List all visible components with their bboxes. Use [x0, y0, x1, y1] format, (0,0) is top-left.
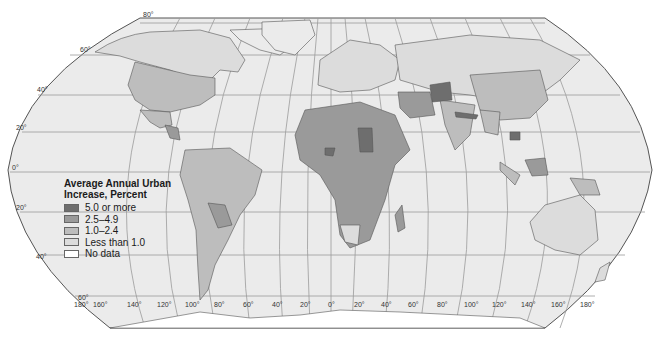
legend-swatch: [64, 204, 79, 212]
legend-item: No data: [64, 248, 194, 260]
svg-text:0°: 0°: [12, 164, 19, 171]
legend-item: 1.0–2.4: [64, 225, 194, 237]
svg-text:160°: 160°: [551, 301, 566, 308]
svg-text:120°: 120°: [492, 301, 507, 308]
legend: Average Annual Urban Increase, Percent 5…: [64, 178, 194, 260]
svg-text:20°: 20°: [16, 204, 27, 211]
svg-text:80°: 80°: [143, 11, 154, 18]
svg-text:60°: 60°: [408, 301, 419, 308]
svg-text:40°: 40°: [37, 86, 48, 93]
svg-text:160°: 160°: [93, 301, 108, 308]
svg-text:40°: 40°: [381, 301, 392, 308]
legend-item: Less than 1.0: [64, 237, 194, 249]
svg-text:100°: 100°: [464, 301, 479, 308]
svg-text:20°: 20°: [300, 301, 311, 308]
svg-text:120°: 120°: [157, 301, 172, 308]
svg-text:180°: 180°: [580, 301, 595, 308]
legend-item: 5.0 or more: [64, 202, 194, 214]
svg-text:140°: 140°: [521, 301, 536, 308]
svg-text:140°: 140°: [127, 301, 142, 308]
svg-text:40°: 40°: [272, 301, 283, 308]
legend-title-line2: Increase, Percent: [64, 189, 194, 200]
svg-text:80°: 80°: [214, 301, 225, 308]
svg-text:20°: 20°: [16, 124, 27, 131]
legend-title-line1: Average Annual Urban: [64, 178, 194, 189]
legend-swatch: [64, 215, 79, 223]
svg-text:60°: 60°: [78, 294, 89, 301]
svg-text:40°: 40°: [36, 253, 47, 260]
legend-swatch: [64, 250, 79, 258]
legend-swatch: [64, 238, 79, 246]
svg-text:60°: 60°: [80, 46, 91, 53]
svg-text:80°: 80°: [437, 301, 448, 308]
legend-swatch: [64, 227, 79, 235]
svg-text:20°: 20°: [354, 301, 365, 308]
svg-text:60°: 60°: [243, 301, 254, 308]
world-map: 80° 60° 40° 20° 0° 20° 40° 60° 180° 160°…: [0, 0, 657, 342]
svg-text:0°: 0°: [328, 301, 335, 308]
legend-item: 2.5–4.9: [64, 214, 194, 226]
svg-text:100°: 100°: [185, 301, 200, 308]
svg-text:180°: 180°: [74, 301, 89, 308]
